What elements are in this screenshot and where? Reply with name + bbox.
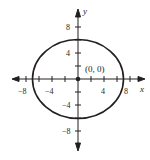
y-axis-label: y	[82, 6, 87, 16]
y-tick-label-8: 8	[66, 23, 70, 32]
ellipse-graph: (0, 0) x y −8 −4 4 8 8 4 −4 −8	[0, 0, 150, 160]
y-tick-label-m4: −4	[62, 101, 71, 110]
center-point	[76, 77, 81, 82]
x-axis-right-arrow-icon	[138, 77, 145, 82]
center-label: (0, 0)	[85, 64, 105, 74]
x-axis-label: x	[139, 84, 144, 94]
x-axis-left-arrow-icon	[12, 77, 19, 82]
y-tick-label-m8: −8	[62, 127, 71, 136]
y-tick-label-4: 4	[66, 49, 70, 58]
x-tick-label-4: 4	[101, 87, 105, 96]
y-axis-down-arrow-icon	[76, 143, 81, 151]
x-tick-label-m4: −4	[45, 87, 54, 96]
x-tick-label-8: 8	[124, 87, 128, 96]
y-axis-up-arrow-icon	[76, 9, 81, 17]
x-tick-label-m8: −8	[18, 87, 27, 96]
